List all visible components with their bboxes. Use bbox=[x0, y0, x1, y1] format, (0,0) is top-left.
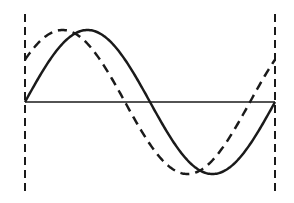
phase-diagram bbox=[0, 0, 294, 203]
